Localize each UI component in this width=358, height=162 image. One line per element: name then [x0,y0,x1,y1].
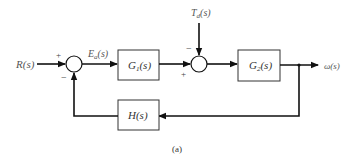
summer1-minus-sign: − [61,72,67,83]
summing-junction-2 [191,56,207,72]
feedback-arrow [74,73,118,116]
input-label: R(s) [15,58,35,71]
summer2-plus-sign: + [181,69,186,79]
block-g2-label: G2(s) [249,59,272,73]
summer2-minus-sign: − [186,43,192,54]
block-g1-label: G1(s) [128,59,151,73]
output-label: ω(s) [324,61,340,71]
figure-caption: (a) [172,144,182,154]
summer1-plus-sign: + [56,50,61,60]
summing-junction-1 [66,56,82,72]
disturbance-label: Td(s) [191,7,211,20]
error-label: Ea(s) [87,48,109,61]
block-diagram: R(s) + − Ea(s) G1(s) + − Td(s) G2(s) ω(s… [0,0,358,162]
block-h-label: H(s) [127,109,148,122]
